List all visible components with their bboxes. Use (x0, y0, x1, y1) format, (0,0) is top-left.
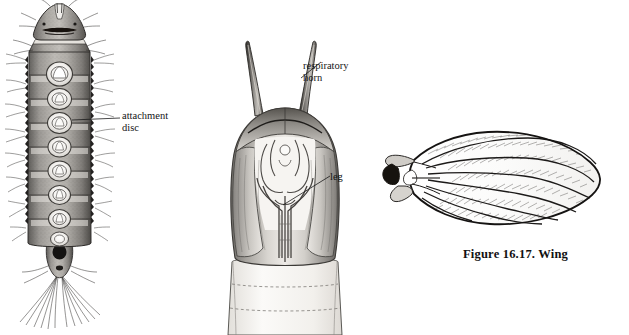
label-respiratory-horn: respiratory horn (303, 60, 348, 83)
pupa-eye-case (280, 145, 290, 155)
pupa-drawing (195, 0, 375, 335)
label-leg: leg (330, 171, 343, 183)
attachment-disc (49, 210, 71, 229)
figure-wing (378, 112, 623, 237)
anal-opening (56, 266, 63, 271)
label-attachment-disc: attachment disc (122, 110, 168, 133)
attachment-disc (48, 137, 71, 157)
attachment-disc (49, 186, 71, 205)
figure-pupa (195, 0, 375, 335)
figure-caption: Figure 16.17. Wing (463, 247, 568, 262)
attachment-disc (48, 161, 71, 181)
pupa-abdomen (228, 258, 342, 335)
attachment-disc (48, 89, 72, 110)
respiratory-horn-left (246, 41, 263, 116)
attachment-disc (51, 232, 69, 246)
attachment-disc (48, 113, 72, 134)
illustration-plate: attachment disc (0, 0, 629, 335)
wing-drawing (378, 112, 623, 237)
figure-larva (0, 0, 200, 335)
larva-drawing (0, 0, 200, 335)
attachment-disc (47, 62, 73, 86)
caudal-bristle-fan (20, 276, 100, 329)
